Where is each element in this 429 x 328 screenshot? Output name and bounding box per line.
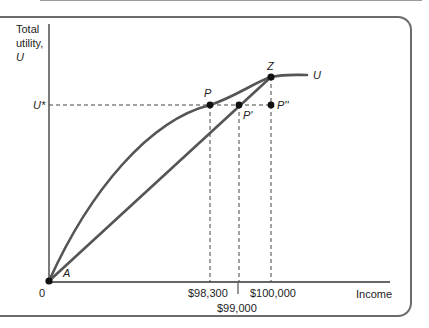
y-title-line1: Total — [16, 23, 39, 35]
label-P-prime: P' — [243, 109, 253, 121]
y-title-line2: utility, — [16, 37, 43, 49]
label-U-curve: U — [313, 69, 321, 81]
label-A: A — [62, 267, 70, 279]
point-P — [207, 102, 214, 109]
x-axis-title: Income — [356, 288, 392, 300]
point-A — [45, 277, 52, 284]
utility-chart: Total utility, U U* 0 A P P' P'' Z U $98… — [0, 0, 429, 328]
point-P-double-prime — [268, 102, 275, 109]
x-tick-100000: $100,000 — [250, 287, 296, 299]
y-title-line3: U — [16, 51, 24, 63]
origin-label: 0 — [39, 287, 45, 299]
point-P-prime — [236, 102, 243, 109]
point-Z — [267, 73, 274, 80]
x-tick-99000: $99,000 — [217, 302, 257, 314]
label-P: P — [204, 87, 212, 99]
label-P-double-prime: P'' — [277, 99, 289, 111]
label-Z: Z — [266, 60, 275, 72]
x-tick-98300: $98,300 — [188, 287, 228, 299]
u-star-label: U* — [33, 99, 46, 111]
